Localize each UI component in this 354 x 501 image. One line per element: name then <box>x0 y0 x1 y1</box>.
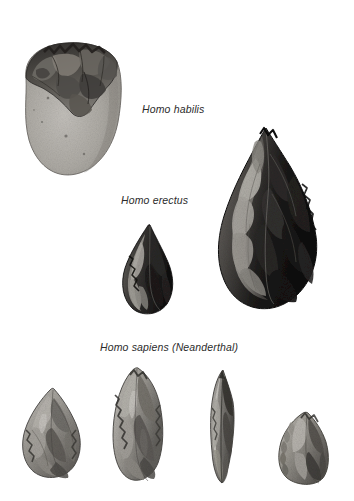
stone-tool-figure: Homo habilis <box>0 0 354 501</box>
artifact-mousterian-scraper <box>275 410 333 486</box>
artifact-oldowan-chopper <box>14 26 130 182</box>
label-homo-habilis: Homo habilis <box>142 103 205 115</box>
artifact-mousterian-borer <box>200 368 244 486</box>
artifact-mousterian-point <box>18 386 84 482</box>
artifact-acheulean-point <box>117 222 179 318</box>
label-homo-sapiens-neanderthal: Homo sapiens (Neanderthal) <box>100 341 238 353</box>
artifact-mousterian-blade <box>110 365 166 485</box>
label-homo-erectus: Homo erectus <box>121 194 188 206</box>
artifact-acheulean-handaxe <box>210 124 326 316</box>
